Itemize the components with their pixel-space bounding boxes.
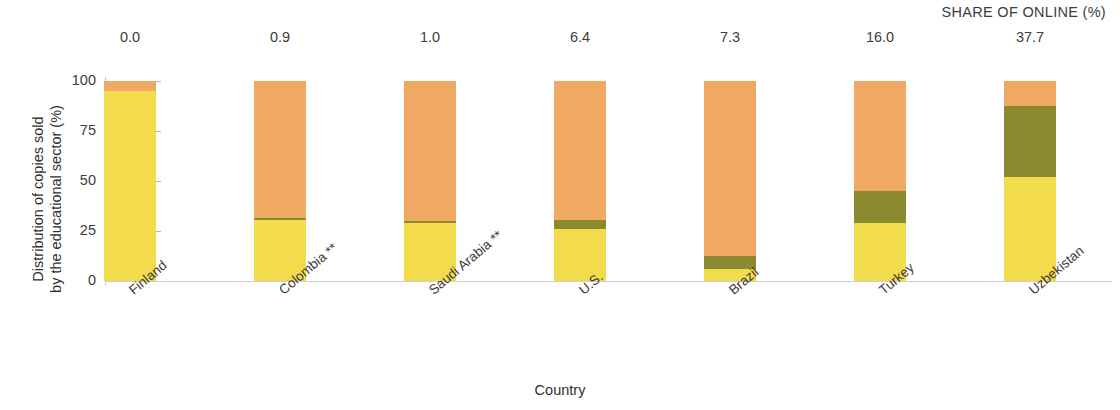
plot-area xyxy=(0,0,1120,410)
stacked-bar[interactable] xyxy=(404,81,456,281)
bar-segment-orange xyxy=(704,81,756,256)
x-axis-title: Country xyxy=(0,382,1120,398)
bar-segment-orange xyxy=(104,81,156,91)
stacked-bar[interactable] xyxy=(254,81,306,281)
bar-segment-green xyxy=(554,220,606,229)
bar-segment-yellow xyxy=(1004,177,1056,281)
bar-segment-orange xyxy=(254,81,306,218)
bar-segment-yellow xyxy=(104,91,156,281)
bar-segment-orange xyxy=(854,81,906,191)
chart-figure: SHARE OF ONLINE (%) 0.00.91.06.47.316.03… xyxy=(0,0,1120,410)
bar-segment-orange xyxy=(1004,81,1056,106)
bar-segment-orange xyxy=(554,81,606,220)
stacked-bar[interactable] xyxy=(104,81,156,281)
bar-segment-orange xyxy=(404,81,456,221)
stacked-bar[interactable] xyxy=(1004,81,1056,281)
bar-segment-green xyxy=(854,191,906,223)
stacked-bar[interactable] xyxy=(704,81,756,281)
stacked-bar[interactable] xyxy=(854,81,906,281)
bar-segment-green xyxy=(1004,106,1056,177)
stacked-bar[interactable] xyxy=(554,81,606,281)
